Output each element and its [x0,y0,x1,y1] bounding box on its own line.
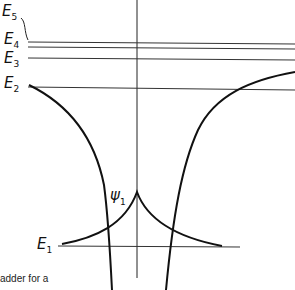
potential-right-curve [166,72,295,290]
label-e5: E5 [2,2,17,22]
level-line-e1 [58,246,240,247]
potential-left-curve [29,85,112,290]
label-psi1: ψ1 [110,186,126,207]
label-e4: E4 [4,30,19,50]
e5-leader [21,18,28,40]
label-e3: E3 [4,49,19,69]
label-e1: E1 [37,235,52,255]
level-line-e4 [28,42,295,44]
wavefunction-curve [62,192,222,246]
level-line-e4b [28,47,295,49]
level-line-e2 [28,87,295,90]
level-line-e3 [28,58,295,60]
label-e2: E2 [4,74,19,94]
energy-ladder-diagram: E5 E4 E3 E2 E1 ψ1 adder for a [0,0,295,290]
caption-fragment: adder for a [0,273,49,284]
